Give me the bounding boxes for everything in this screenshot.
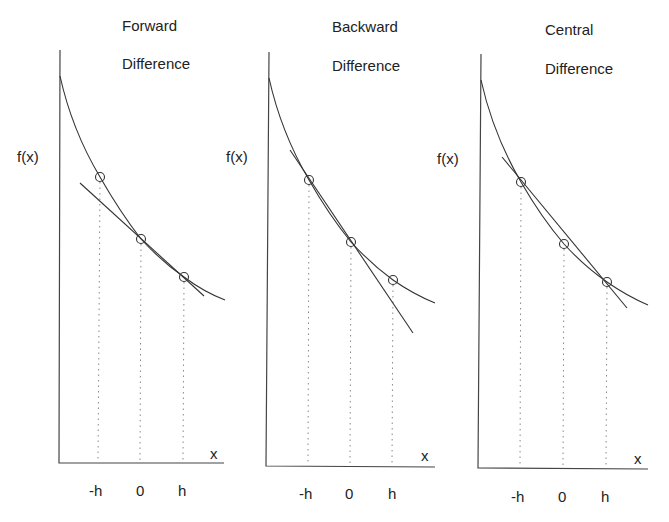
x-axis-label: x — [421, 447, 429, 464]
y-axis-label: f(x) — [17, 148, 39, 165]
guide-h — [183, 282, 184, 462]
guide-zero — [350, 247, 351, 465]
guide-minus-h — [98, 182, 100, 462]
panel-title-line1: Backward — [332, 18, 398, 35]
panel-title-line2: Difference — [332, 57, 400, 74]
guide-minus-h — [520, 187, 521, 467]
axes — [478, 54, 648, 469]
guide-minus-h — [308, 185, 309, 465]
function-curve — [481, 80, 648, 305]
panel-forward: Forward Difference f(x) x -h 0 h — [17, 17, 225, 499]
guide-zero — [140, 244, 141, 462]
panel-title-line1: Central — [545, 21, 593, 38]
finite-difference-diagram: Forward Difference f(x) x -h 0 h Backwar… — [0, 0, 669, 522]
secant-line — [80, 183, 204, 296]
tick-h: h — [601, 488, 609, 505]
tick-minus-h: -h — [299, 485, 312, 502]
y-axis-label: f(x) — [437, 150, 459, 167]
tick-h: h — [178, 482, 186, 499]
axes — [266, 52, 435, 467]
secant-line — [502, 157, 627, 308]
panel-central: Central Difference f(x) x -h 0 h — [437, 21, 648, 505]
panel-title-line1: Forward — [122, 17, 177, 34]
panel-backward: Backward Difference f(x) x -h 0 h — [226, 18, 435, 502]
guide-zero — [563, 249, 564, 467]
tick-minus-h: -h — [89, 482, 102, 499]
tick-zero: 0 — [136, 482, 144, 499]
axes — [59, 50, 224, 463]
tick-h: h — [388, 485, 396, 502]
x-axis-label: x — [634, 450, 642, 467]
guide-h — [392, 285, 393, 465]
guide-h — [606, 287, 607, 467]
y-axis-label: f(x) — [226, 148, 248, 165]
tick-zero: 0 — [558, 488, 566, 505]
function-curve — [269, 78, 435, 303]
x-axis-label: x — [210, 445, 218, 462]
secant-line — [290, 150, 413, 333]
tick-zero: 0 — [345, 485, 353, 502]
tick-minus-h: -h — [511, 488, 524, 505]
panel-title-line2: Difference — [122, 55, 190, 72]
panel-title-line2: Difference — [545, 60, 613, 77]
